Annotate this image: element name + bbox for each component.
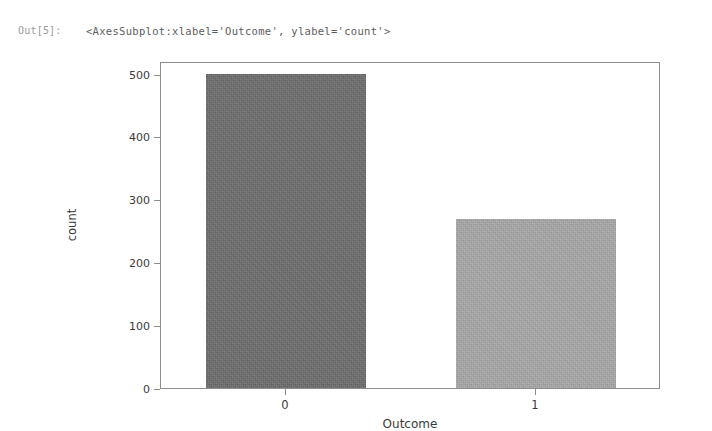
x-tick-label: 1 — [505, 398, 565, 412]
x-tick-mark — [285, 389, 286, 395]
bar-0 — [206, 74, 366, 388]
y-tick-label: 500 — [110, 68, 150, 81]
matplotlib-figure: 0100200300400500 count 01 Outcome — [0, 46, 712, 420]
y-axis-label: count — [65, 195, 79, 255]
bar-texture — [206, 74, 366, 388]
y-tick-label: 300 — [110, 194, 150, 207]
bar-texture — [456, 219, 616, 388]
y-tick-mark — [154, 389, 160, 390]
axes-repr-text: <AxesSubplot:xlabel='Outcome', ylabel='c… — [86, 25, 391, 37]
y-tick-label: 100 — [110, 320, 150, 333]
plot-area — [160, 62, 660, 389]
x-axis-label: Outcome — [160, 417, 660, 431]
y-tick-label: 0 — [110, 383, 150, 396]
y-tick-label: 200 — [110, 257, 150, 270]
bar-1 — [456, 219, 616, 388]
x-tick-mark — [535, 389, 536, 395]
x-tick-label: 0 — [255, 398, 315, 412]
y-tick-label: 400 — [110, 131, 150, 144]
output-prompt-label: Out[5]: — [18, 25, 62, 36]
